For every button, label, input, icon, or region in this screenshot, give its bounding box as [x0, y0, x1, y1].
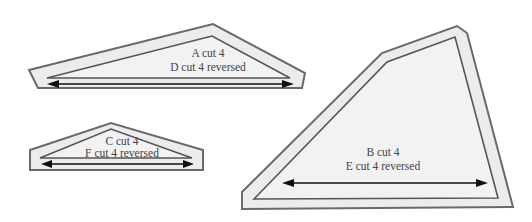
piece-a-d-label-line1: A cut 4: [191, 47, 224, 59]
piece-b-e-label-line2: E cut 4 reversed: [346, 160, 421, 172]
piece-c-f-label-line1: C cut 4: [105, 135, 138, 147]
piece-b-e-label-line1: B cut 4: [366, 146, 399, 158]
pattern-pieces-diagram: A cut 4 D cut 4 reversed C cut 4 F cut 4…: [0, 0, 532, 222]
pattern-piece-b-e: B cut 4 E cut 4 reversed: [242, 26, 513, 209]
piece-c-f-label-line2: F cut 4 reversed: [85, 147, 159, 159]
pattern-piece-a-d: A cut 4 D cut 4 reversed: [29, 24, 305, 88]
pattern-piece-c-f: C cut 4 F cut 4 reversed: [30, 123, 203, 170]
piece-a-d-label-line2: D cut 4 reversed: [170, 61, 246, 73]
